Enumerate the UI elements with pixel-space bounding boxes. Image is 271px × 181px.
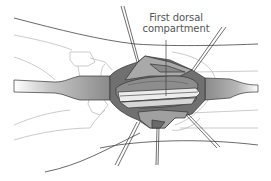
tendon-left bbox=[14, 76, 110, 100]
label-first-dorsal: First dorsal bbox=[140, 12, 212, 23]
tendon-right bbox=[205, 78, 258, 100]
label-compartment: compartment bbox=[136, 23, 216, 34]
